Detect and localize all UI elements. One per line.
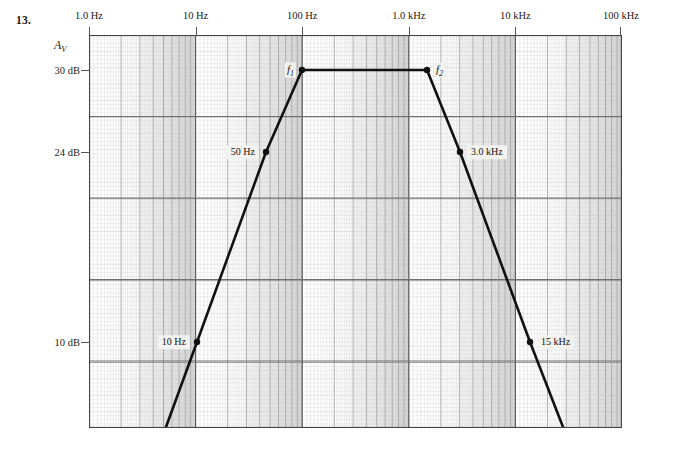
x-tick-label-1khz: 1.0 kHz [392, 10, 425, 21]
f1-subscript: 1 [290, 69, 294, 78]
x-axis-tick-mark [515, 27, 516, 35]
x-axis-tick-mark [302, 27, 303, 35]
y-axis-title: AV [54, 38, 67, 54]
bode-plot-area [89, 35, 622, 428]
callout-50hz: 50 Hz [227, 145, 259, 159]
y-tick-label-24db: 24 dB [34, 147, 80, 158]
callout-10hz: 10 Hz [158, 335, 190, 349]
y-axis-tick-mark [81, 152, 90, 153]
figure-canvas: 13. AV 1.0 Hz 10 Hz 100 Hz 1.0 kHz 10 kH… [0, 0, 673, 449]
x-tick-label-100khz: 100 kHz [603, 10, 639, 21]
x-tick-label-10khz: 10 kHz [500, 10, 531, 21]
x-axis-tick-mark [89, 27, 90, 35]
plot-svg [89, 35, 622, 428]
callout-15khz: 15 kHz [537, 335, 574, 349]
f2-subscript: 2 [439, 69, 443, 78]
y-tick-label-10db: 10 dB [34, 337, 80, 348]
y-axis-tick-mark [81, 342, 90, 343]
x-tick-label-1hz: 1.0 Hz [75, 10, 103, 21]
callout-f1: f1 [285, 63, 296, 78]
callout-f2: f2 [434, 63, 445, 78]
problem-number: 13. [16, 14, 31, 26]
x-axis-tick-mark [620, 27, 621, 35]
x-tick-label-10hz: 10 Hz [183, 10, 208, 21]
y-axis-title-subscript: V [61, 44, 66, 54]
x-axis-tick-mark [409, 27, 410, 35]
y-tick-label-30db: 30 dB [34, 65, 80, 76]
y-axis-tick-mark [81, 70, 90, 71]
x-tick-label-100hz: 100 Hz [287, 10, 318, 21]
callout-3khz: 3.0 kHz [467, 145, 507, 159]
x-axis-tick-mark [196, 27, 197, 35]
